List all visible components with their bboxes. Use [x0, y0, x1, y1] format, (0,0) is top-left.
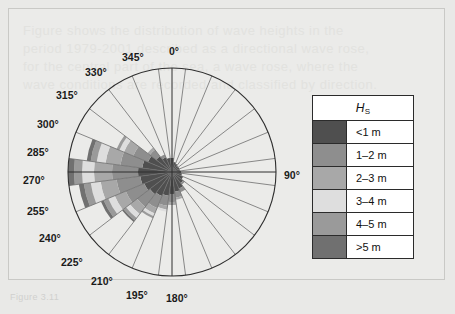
degree-label-255: 255° — [27, 205, 49, 217]
degree-label-330: 330° — [85, 66, 107, 78]
legend: HS <1 m1–2 m2–3 m3–4 m4–5 m>5 m — [312, 95, 414, 259]
legend-swatch — [313, 144, 347, 166]
legend-title-text: HS — [356, 101, 370, 115]
legend-label: 2–3 m — [347, 167, 413, 189]
legend-row: 2–3 m — [313, 167, 413, 190]
degree-label-270: 270° — [23, 174, 45, 186]
legend-label: 1–2 m — [347, 144, 413, 166]
legend-label: <1 m — [347, 121, 413, 143]
legend-label: 3–4 m — [347, 190, 413, 212]
degree-label-225: 225° — [61, 256, 83, 268]
legend-row: 1–2 m — [313, 144, 413, 167]
legend-swatch — [313, 190, 347, 212]
degree-label-180: 180° — [166, 292, 188, 304]
figure-caption: Figure 3.11 — [10, 292, 59, 302]
degree-label-0: 0° — [169, 45, 179, 57]
polar-grid-layer — [68, 68, 276, 276]
legend-label: 4–5 m — [347, 213, 413, 235]
petal-layer — [68, 135, 185, 222]
legend-row: 3–4 m — [313, 190, 413, 213]
legend-label: >5 m — [347, 236, 413, 258]
figure-frame: Figure shows the distribution of wave he… — [8, 8, 445, 280]
legend-row: >5 m — [313, 236, 413, 258]
legend-swatch — [313, 121, 347, 143]
legend-row: <1 m — [313, 121, 413, 144]
degree-label-315: 315° — [56, 89, 78, 101]
degree-label-345: 345° — [122, 51, 144, 63]
degree-label-300: 300° — [37, 118, 59, 130]
legend-swatch — [313, 167, 347, 189]
legend-rows: <1 m1–2 m2–3 m3–4 m4–5 m>5 m — [313, 121, 413, 258]
degree-label-195: 195° — [126, 289, 148, 301]
legend-row: 4–5 m — [313, 213, 413, 236]
legend-title: HS — [313, 96, 413, 121]
degree-label-90: 90° — [284, 169, 300, 181]
legend-swatch — [313, 236, 347, 258]
degree-label-240: 240° — [39, 232, 61, 244]
legend-swatch — [313, 213, 347, 235]
degree-label-285: 285° — [27, 146, 49, 158]
degree-label-210: 210° — [91, 275, 113, 287]
